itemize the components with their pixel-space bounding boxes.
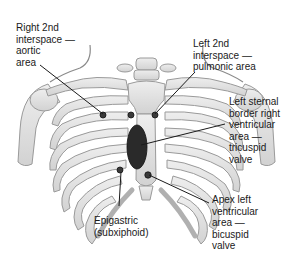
label-epigastric-area: Epigastric (subxiphoid)	[94, 215, 148, 238]
cervical-vertebra	[117, 58, 176, 80]
pulmonic-point-marker	[152, 112, 158, 118]
label-tricuspid-area: Left sternal border right ventricular ar…	[229, 96, 280, 165]
epigastric-point-marker	[117, 167, 123, 173]
label-bicuspid-area: Apex left ventricular area — bicuspid va…	[212, 194, 258, 252]
label-pulmonic-area: Left 2nd interspace — pulmonic area	[193, 38, 256, 73]
label-aortic-area: Right 2nd interspace — aortic area	[16, 22, 75, 68]
auscultation-diagram: Right 2nd interspace — aortic area Left …	[0, 0, 293, 267]
apex-point-marker	[145, 172, 151, 178]
tricuspid-area-marker	[127, 125, 147, 169]
